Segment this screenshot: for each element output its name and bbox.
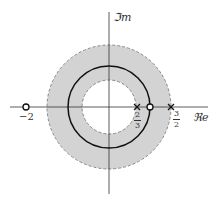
- tick-label-neg-two: −2: [19, 112, 34, 122]
- plot-svg: [0, 0, 220, 198]
- zero-marker-1: [147, 104, 153, 110]
- real-axis-label: ℜe: [193, 112, 209, 123]
- zero-marker-neg2: [23, 104, 29, 110]
- pole-zero-diagram: ℑm ℜe −2 2 3 3 2: [0, 0, 220, 198]
- tick-label-three-halves: 3 2: [173, 110, 180, 129]
- imag-axis-label: ℑm: [113, 12, 131, 23]
- tick-label-two-thirds: 2 3: [134, 111, 141, 130]
